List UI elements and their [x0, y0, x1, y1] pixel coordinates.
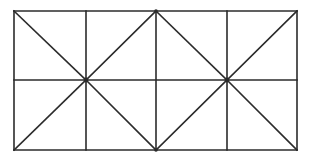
top-middle-junction — [154, 9, 158, 13]
grid-lines-group — [14, 11, 297, 150]
cell-r2c4-diagonal — [227, 80, 297, 150]
cell-r1c4-diagonal — [227, 11, 297, 80]
geometric-grid-figure — [0, 0, 312, 161]
figure-root — [0, 0, 312, 161]
bottom-middle-junction — [154, 148, 158, 152]
cell-r1c3-diagonal — [156, 11, 227, 80]
cell-r1c2-diagonal — [86, 11, 156, 80]
cell-r2c3-diagonal — [156, 80, 227, 150]
cell-r1c1-diagonal — [14, 11, 86, 80]
right-star-junction — [225, 78, 230, 83]
cell-r2c2-diagonal — [86, 80, 156, 150]
cell-r2c1-diagonal — [14, 80, 86, 150]
left-star-junction — [84, 78, 89, 83]
